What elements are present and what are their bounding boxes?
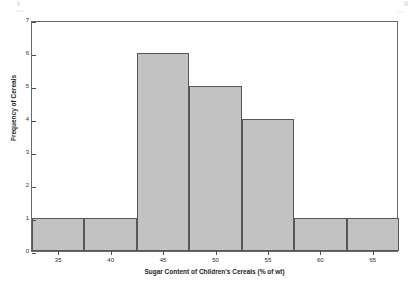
- histogram-bar: [189, 86, 241, 251]
- y-tick-label: 7: [26, 17, 29, 24]
- x-tick-label: 35: [55, 257, 62, 264]
- histogram-figure: 01234567 35404550556065 Sugar Content of…: [0, 0, 412, 286]
- y-axis-label: Frequency of Cereals: [10, 48, 18, 168]
- y-tick-label: 3: [26, 149, 29, 156]
- x-tick-mark: [163, 251, 164, 255]
- y-tick-mark: [32, 253, 36, 254]
- y-tick-label: 1: [26, 215, 29, 222]
- y-tick-mark: [32, 220, 36, 221]
- histogram-bar: [294, 218, 346, 251]
- y-tick-mark: [32, 154, 36, 155]
- scan-artifact-icon: [16, 10, 23, 12]
- y-tick-mark: [32, 187, 36, 188]
- x-tick-mark: [268, 251, 269, 255]
- y-tick-label: 0: [26, 248, 29, 255]
- histogram-bar: [32, 218, 84, 251]
- y-tick-label: 6: [26, 50, 29, 57]
- y-tick-mark: [32, 22, 36, 23]
- histogram-bar: [347, 218, 399, 251]
- x-tick-label: 65: [369, 257, 376, 264]
- x-tick-mark: [58, 251, 59, 255]
- y-tick-mark: [32, 88, 36, 89]
- bars-container: [32, 22, 397, 251]
- y-tick-mark: [32, 121, 36, 122]
- histogram-bar: [84, 218, 136, 251]
- plot-area: 01234567 35404550556065: [31, 21, 398, 252]
- x-tick-mark: [216, 251, 217, 255]
- x-tick-mark: [111, 251, 112, 255]
- y-tick-label: 2: [26, 182, 29, 189]
- scan-artifact-icon: [397, 11, 405, 13]
- histogram-bar: [242, 119, 294, 251]
- x-tick-label: 45: [160, 257, 167, 264]
- x-tick-label: 40: [107, 257, 114, 264]
- x-tick-label: 60: [317, 257, 324, 264]
- x-tick-mark: [373, 251, 374, 255]
- scan-artifact-icon: [404, 1, 408, 6]
- histogram-bar: [137, 53, 189, 251]
- x-axis-label: Sugar Content of Children's Cereals (% o…: [31, 268, 398, 276]
- x-tick-mark: [320, 251, 321, 255]
- y-tick-label: 4: [26, 116, 29, 123]
- y-tick-mark: [32, 55, 36, 56]
- x-tick-label: 50: [212, 257, 219, 264]
- scan-artifact-icon: [17, 1, 20, 6]
- x-tick-label: 55: [265, 257, 272, 264]
- y-tick-label: 5: [26, 83, 29, 90]
